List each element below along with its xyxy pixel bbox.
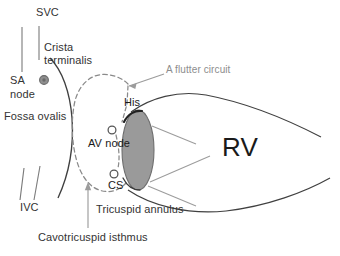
- label-cs: CS: [108, 179, 123, 191]
- ivc-vessel-lines: [20, 166, 40, 200]
- cavotricuspid-isthmus-arrow: [85, 182, 91, 228]
- label-sa-node-line2: node: [10, 88, 35, 100]
- av-node-marker: [108, 126, 116, 134]
- tricuspid-annulus-leader-upper: [152, 126, 196, 144]
- rv-superior-outline: [131, 94, 321, 137]
- svc-vessel-lines: [22, 26, 39, 72]
- label-his: His: [124, 96, 140, 108]
- label-crista-terminalis-line2: terminalis: [44, 54, 92, 67]
- tricuspid-annulus-ellipse: [122, 110, 154, 190]
- label-sa-node-line1: SA: [10, 74, 25, 86]
- ivc-line-right: [34, 166, 40, 200]
- ivc-line-left: [20, 168, 24, 200]
- label-ivc: IVC: [20, 201, 39, 213]
- cs-marker: [110, 170, 118, 178]
- label-cavotricuspid-isthmus: Cavotricuspid isthmus: [38, 231, 148, 243]
- diagram-canvas: [0, 0, 340, 256]
- flutter-circuit-dashed-path: [72, 74, 128, 191]
- anatomy-diagram: SVC Crista terminalis SA node Fossa oval…: [0, 0, 340, 256]
- label-fossa-ovalis: Fossa ovalis: [4, 110, 66, 122]
- a-flutter-circuit-arrow: [129, 74, 164, 89]
- label-av-node: AV node: [88, 137, 130, 149]
- label-svc: SVC: [36, 6, 59, 18]
- label-crista-terminalis-line1: Crista: [44, 41, 73, 54]
- sa-node-marker: [40, 76, 49, 85]
- tricuspid-annulus-leader-lower: [150, 156, 210, 182]
- label-a-flutter-circuit: A flutter circuit: [166, 64, 231, 75]
- label-tricuspid-annulus: Tricuspid annulus: [96, 203, 184, 215]
- label-rv: RV: [222, 133, 258, 162]
- crista-terminalis-curve: [50, 58, 72, 198]
